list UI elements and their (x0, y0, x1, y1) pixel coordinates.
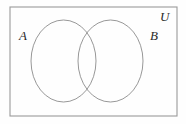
set-a-circle (31, 20, 96, 102)
venn-diagram-canvas (0, 0, 186, 124)
universe-rectangle (10, 7, 177, 116)
set-b-label: B (150, 29, 158, 42)
set-b-circle (78, 20, 143, 102)
set-a-label: A (19, 29, 27, 42)
venn-diagram-figure: A B U (0, 0, 186, 124)
universe-label: U (160, 10, 169, 23)
